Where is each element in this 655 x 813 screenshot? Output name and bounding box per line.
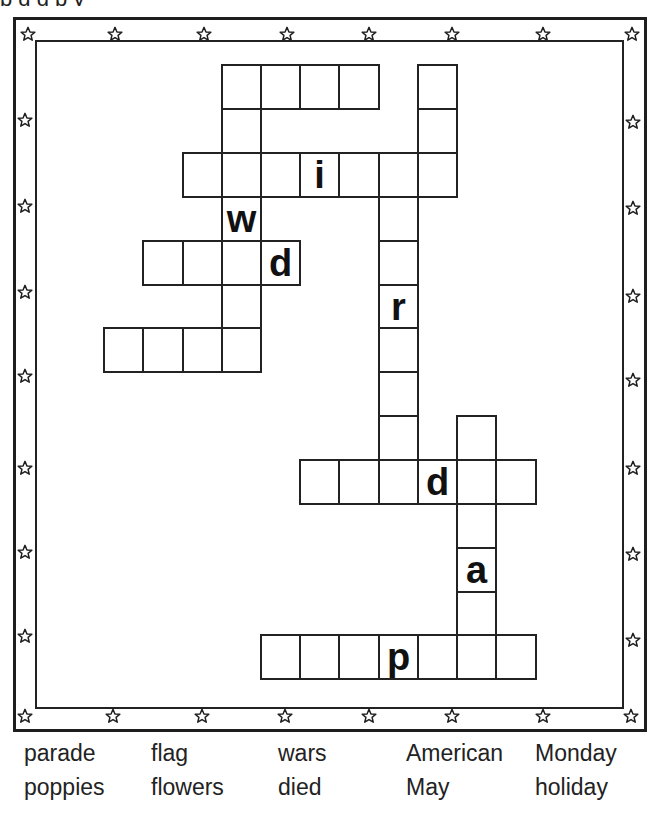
crossword-cell[interactable] (456, 634, 497, 680)
crossword-cell[interactable] (378, 415, 419, 461)
crossword-cell[interactable] (182, 240, 223, 286)
crossword-cell[interactable] (221, 240, 262, 286)
crossword-cell[interactable] (338, 152, 380, 198)
crossword-cell[interactable] (338, 634, 380, 680)
crossword-cell[interactable]: i (299, 152, 340, 198)
crossword-cell[interactable]: d (417, 459, 458, 505)
crossword-cell[interactable] (103, 327, 144, 373)
crossword-cell[interactable]: a (456, 547, 497, 593)
crossword-cell[interactable] (378, 152, 419, 198)
word-bank-item: died (278, 774, 321, 801)
crossword-cell[interactable] (221, 327, 262, 373)
word-bank-item: May (406, 774, 449, 801)
word-bank-item: parade (24, 740, 96, 767)
crossword-cell[interactable] (299, 64, 340, 110)
crossword-cell[interactable] (456, 459, 497, 505)
crossword-cell[interactable] (338, 459, 380, 505)
crossword-cell[interactable] (299, 459, 340, 505)
crossword-cell[interactable] (378, 196, 419, 242)
word-bank-item: poppies (24, 774, 105, 801)
word-bank-item: holiday (535, 774, 608, 801)
crossword-cell[interactable] (221, 64, 262, 110)
crossword-cell[interactable] (417, 152, 458, 198)
crossword-cell[interactable] (378, 240, 419, 286)
crossword-cell[interactable] (260, 152, 301, 198)
crossword-cell[interactable] (221, 108, 262, 154)
crossword-cell[interactable] (182, 152, 223, 198)
crossword-cell[interactable] (417, 634, 458, 680)
crossword-cell[interactable] (260, 64, 301, 110)
word-bank-item: flag (151, 740, 188, 767)
crossword-cell[interactable] (142, 327, 184, 373)
crossword-cell[interactable]: w (221, 196, 262, 242)
word-bank-item: flowers (151, 774, 224, 801)
crossword-cell[interactable] (221, 284, 262, 329)
crossword-cell[interactable] (456, 503, 497, 549)
crossword-cell[interactable] (378, 371, 419, 417)
crossword-cell[interactable] (182, 327, 223, 373)
crossword-cell[interactable] (456, 591, 497, 636)
crossword-cell[interactable] (495, 634, 537, 680)
crossword-cell[interactable]: p (378, 634, 419, 680)
word-bank-item: wars (278, 740, 327, 767)
word-bank: paradepoppiesflagflowerswarsdiedAmerican… (0, 740, 655, 810)
crossword-cell[interactable] (417, 108, 458, 154)
crossword-grid: iwdrdap (0, 0, 655, 813)
crossword-cell[interactable]: r (378, 284, 419, 329)
crossword-cell[interactable] (378, 459, 419, 505)
crossword-cell[interactable] (495, 459, 537, 505)
crossword-cell[interactable] (378, 327, 419, 373)
crossword-cell[interactable] (338, 64, 380, 110)
crossword-cell[interactable]: d (260, 240, 301, 286)
word-bank-item: American (406, 740, 503, 767)
crossword-cell[interactable] (456, 415, 497, 461)
crossword-cell[interactable] (417, 64, 458, 110)
crossword-cell[interactable] (142, 240, 184, 286)
crossword-cell[interactable] (260, 634, 301, 680)
crossword-cell[interactable] (221, 152, 262, 198)
word-bank-item: Monday (535, 740, 617, 767)
crossword-cell[interactable] (299, 634, 340, 680)
